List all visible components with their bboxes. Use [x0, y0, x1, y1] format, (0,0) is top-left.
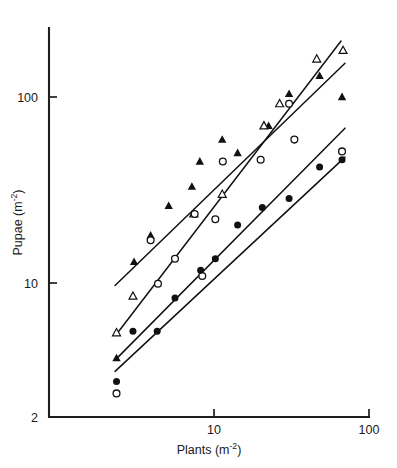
point-filled-triangle [130, 257, 138, 265]
fit-line-open-circle [115, 128, 345, 360]
point-filled-circle [286, 195, 293, 202]
point-open-triangle [276, 100, 284, 107]
point-open-circle [291, 136, 298, 143]
point-open-circle [191, 211, 198, 218]
point-filled-triangle [233, 149, 241, 157]
fit-line-filled-circle [115, 157, 345, 371]
point-filled-circle [154, 328, 161, 335]
point-filled-triangle [196, 157, 204, 165]
point-open-triangle [339, 46, 347, 53]
y-tick-label: 2 [31, 411, 38, 425]
scatter-plot: 21010010100Plants (m-2)Pupae (m-2) [0, 0, 397, 468]
fit-line-filled-triangle [115, 63, 345, 285]
point-filled-triangle [164, 201, 172, 209]
point-open-circle [219, 158, 226, 165]
point-filled-circle [171, 295, 178, 302]
fit-line-open-triangle [117, 41, 342, 334]
point-filled-circle [113, 378, 120, 385]
point-filled-circle [339, 156, 346, 163]
point-open-circle [155, 280, 162, 287]
point-open-circle [113, 390, 120, 397]
x-tick-label: 10 [207, 423, 221, 437]
axis-labels: 21010010100Plants (m-2)Pupae (m-2) [9, 91, 379, 458]
point-open-circle [339, 148, 346, 155]
x-tick-label: 100 [359, 423, 380, 437]
y-tick-label: 100 [17, 91, 38, 105]
point-open-triangle [313, 55, 321, 62]
point-filled-circle [259, 204, 266, 211]
point-filled-triangle [188, 182, 196, 190]
point-filled-triangle [338, 93, 346, 101]
point-filled-circle [234, 222, 241, 229]
data-points [112, 46, 347, 397]
y-tick-label: 10 [24, 277, 38, 291]
y-axis-title: Pupae (m-2) [9, 189, 25, 255]
point-open-circle [172, 255, 179, 262]
point-filled-circle [316, 164, 323, 171]
point-filled-triangle [285, 89, 293, 97]
point-filled-circle [197, 267, 204, 274]
chart-figure: 21010010100Plants (m-2)Pupae (m-2) [0, 0, 397, 468]
point-filled-circle [129, 328, 136, 335]
point-filled-circle [212, 255, 219, 262]
point-open-circle [286, 100, 293, 107]
x-axis-title: Plants (m-2) [177, 441, 242, 457]
point-open-circle [147, 237, 154, 244]
point-open-circle [212, 216, 219, 223]
point-open-circle [257, 156, 264, 163]
regression-lines [115, 41, 345, 371]
point-filled-triangle [218, 135, 226, 143]
point-open-triangle [129, 292, 137, 299]
